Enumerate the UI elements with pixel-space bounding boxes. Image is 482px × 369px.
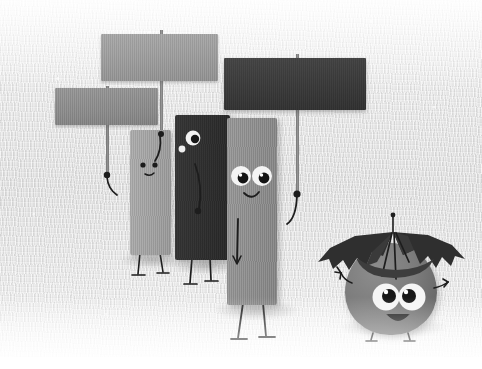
round-character-mouth-inner (387, 314, 409, 321)
round-character-right-eye-glint (404, 290, 408, 294)
umbrella-finial (391, 213, 396, 218)
illustration-scene (0, 0, 482, 369)
round-character-right-foot (408, 333, 410, 340)
round-character-left-eye-glint (384, 290, 388, 294)
bottom-white-margin (0, 357, 482, 369)
broken-umbrella (0, 0, 482, 357)
round-character-left-arm (335, 267, 352, 283)
round-character-feet (366, 333, 415, 341)
round-character-right-arm (434, 279, 448, 288)
artwork-canvas (0, 0, 482, 357)
round-character-left-foot (371, 333, 373, 340)
